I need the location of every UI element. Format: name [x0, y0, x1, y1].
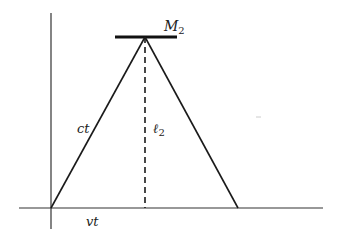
diagram-canvas: M2 ct ℓ2 vt	[0, 0, 343, 243]
light-path-up	[51, 37, 145, 208]
hypotenuse-label: ct	[77, 121, 90, 136]
mirror-label: M2	[163, 18, 185, 36]
height-label: ℓ2	[153, 121, 165, 138]
base-label: vt	[86, 214, 99, 229]
light-path-down	[145, 37, 238, 208]
